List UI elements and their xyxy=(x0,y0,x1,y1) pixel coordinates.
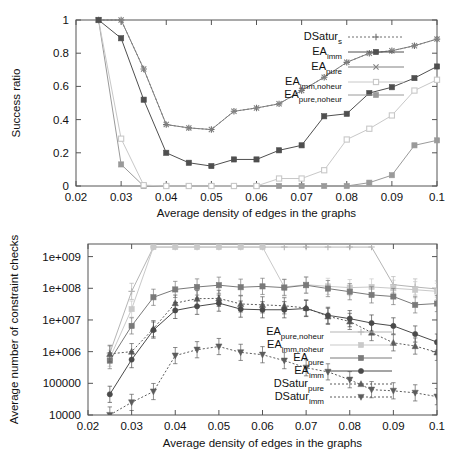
data-point xyxy=(96,17,101,22)
data-point xyxy=(347,316,352,321)
data-point xyxy=(238,285,243,290)
x-tick-label: 0.08 xyxy=(336,191,358,203)
data-point xyxy=(299,176,304,181)
data-point xyxy=(434,301,439,306)
data-point xyxy=(344,137,349,142)
series-ea-imm xyxy=(96,17,440,168)
y-axis-title: Success ratio xyxy=(10,68,22,137)
data-point xyxy=(303,244,309,250)
success-ratio-plot: 0.020.030.040.050.060.070.080.090.100.20… xyxy=(0,0,451,222)
y-tick-label: 1e+009 xyxy=(42,251,81,263)
data-point xyxy=(276,176,281,181)
data-point xyxy=(412,88,417,93)
series-dsaturs xyxy=(95,17,440,133)
data-point xyxy=(344,111,349,116)
data-point xyxy=(412,76,417,81)
data-point xyxy=(216,244,221,249)
legend-marker xyxy=(358,355,363,360)
data-point xyxy=(344,183,349,188)
legend-marker xyxy=(358,342,363,347)
y-axis-title: Average number of constraint checks xyxy=(8,234,20,424)
legend-item-ea-imm-noheur: EAimm,noheur xyxy=(285,75,404,91)
data-point xyxy=(389,85,394,90)
legend-marker xyxy=(358,329,364,335)
data-point xyxy=(209,183,214,188)
x-tick-label: 0.07 xyxy=(290,191,312,203)
figure-container: 0.020.030.040.050.060.070.080.090.100.20… xyxy=(0,0,451,461)
x-tick-label: 0.07 xyxy=(295,420,317,432)
data-point xyxy=(231,157,236,162)
legend-label: EAimm xyxy=(312,45,342,61)
data-point xyxy=(322,168,327,173)
data-point xyxy=(216,283,221,288)
data-point xyxy=(282,307,287,312)
data-point xyxy=(254,157,259,162)
x-tick-label: 0.03 xyxy=(110,191,132,203)
data-point xyxy=(391,294,396,299)
data-point xyxy=(260,284,265,289)
data-point xyxy=(238,307,243,312)
data-point xyxy=(276,148,281,153)
data-point xyxy=(389,113,394,118)
data-point xyxy=(325,369,331,375)
y-tick-label: 0.8 xyxy=(53,47,69,59)
data-point xyxy=(304,283,309,288)
y-tick-label: 1 xyxy=(63,14,69,26)
series-ea-pure xyxy=(107,277,439,369)
data-point xyxy=(186,183,191,188)
axes-group: 0.020.030.040.050.060.070.080.090.100.20… xyxy=(53,14,445,203)
y-tick-label: 100000 xyxy=(43,377,81,389)
data-point xyxy=(260,307,265,312)
y-tick-label: 0.4 xyxy=(53,114,70,126)
data-point xyxy=(325,244,331,250)
x-tick-label: 0.06 xyxy=(251,420,273,432)
data-point xyxy=(276,183,281,188)
data-point xyxy=(164,183,169,188)
data-point xyxy=(119,162,124,167)
x-tick-label: 0.05 xyxy=(208,420,230,432)
data-point xyxy=(173,244,178,249)
data-point xyxy=(141,183,146,188)
data-point xyxy=(389,173,394,178)
data-point xyxy=(231,183,236,188)
data-point xyxy=(194,304,199,309)
data-point xyxy=(259,352,265,358)
data-point xyxy=(216,301,221,306)
chart-panel-constraint-checks: 0.020.030.040.050.060.070.080.090.110000… xyxy=(0,222,451,461)
data-point xyxy=(238,244,243,249)
chart-panel-success-ratio: 0.020.030.040.050.060.070.080.090.100.20… xyxy=(0,0,451,222)
x-tick-label: 0.09 xyxy=(382,420,404,432)
x-tick-label: 0.1 xyxy=(429,420,445,432)
legend-item-dsaturs: DSaturs xyxy=(304,30,404,46)
data-point xyxy=(216,344,222,350)
series-ea-pure xyxy=(96,17,440,132)
data-series-group xyxy=(95,17,440,189)
data-point xyxy=(304,306,309,311)
data-point xyxy=(413,331,418,336)
series-ea-pure-noheur xyxy=(96,17,440,188)
data-point xyxy=(434,64,439,69)
data-point xyxy=(434,394,440,400)
data-point xyxy=(164,150,169,155)
data-point xyxy=(128,288,134,294)
data-point xyxy=(151,327,156,332)
data-point xyxy=(281,244,287,250)
x-axis-title: Average density of edges in the graphs xyxy=(163,437,363,449)
data-point xyxy=(368,244,374,250)
data-point xyxy=(254,183,259,188)
data-point xyxy=(129,323,134,328)
data-point xyxy=(260,244,265,249)
legend-marker xyxy=(373,49,378,54)
data-point xyxy=(325,286,330,291)
data-point xyxy=(129,400,135,406)
y-tick-label: 1e+006 xyxy=(42,346,81,358)
data-point xyxy=(194,284,199,289)
data-point xyxy=(129,357,134,362)
y-tick-label: 10000 xyxy=(49,409,81,421)
data-point xyxy=(412,143,417,148)
data-point xyxy=(369,320,374,325)
legend-marker xyxy=(373,34,379,40)
data-point xyxy=(299,143,304,148)
data-point xyxy=(107,392,112,397)
data-point xyxy=(150,389,156,395)
